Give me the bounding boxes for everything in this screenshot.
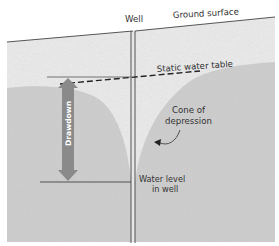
cone-of-depression-label-line1: Cone of bbox=[172, 105, 206, 115]
groundwater-diagram: Drawdown Well Ground surface Static wate… bbox=[0, 0, 279, 246]
water-level-label-line2: in well bbox=[152, 184, 178, 194]
cone-of-depression-label-line2: depression bbox=[165, 116, 212, 126]
ground-surface-label: Ground surface bbox=[173, 7, 240, 20]
well-label: Well bbox=[125, 14, 143, 24]
drawdown-label: Drawdown bbox=[64, 101, 73, 146]
water-level-label-line1: Water level bbox=[139, 174, 185, 184]
